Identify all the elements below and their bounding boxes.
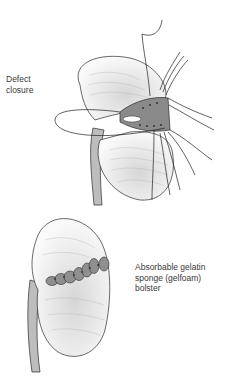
kidney-defect-closure [55,20,214,205]
label-defect-closure: Defect closure [6,74,33,95]
kidney-gelfoam-bolster [28,219,110,372]
label-gelfoam-bolster: Absorbable gelatin sponge (gelfoam) bols… [135,262,205,294]
illustration [0,0,233,386]
